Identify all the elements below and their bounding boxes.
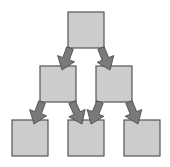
node-box-leaf-2 [68, 120, 104, 156]
node-box-root [68, 12, 104, 48]
nodes-layer [12, 12, 160, 156]
node-box-mid-right [96, 66, 132, 102]
node-box-mid-left [40, 66, 76, 102]
node-box-leaf-1 [12, 120, 48, 156]
tree-diagram [0, 0, 170, 167]
node-box-leaf-3 [124, 120, 160, 156]
